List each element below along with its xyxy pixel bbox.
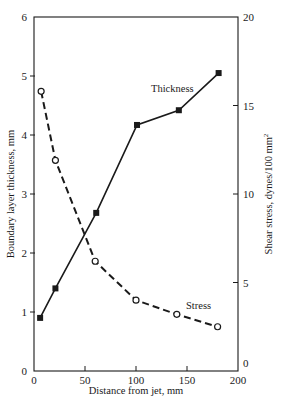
- square-marker: [216, 70, 222, 76]
- stress-series: [38, 88, 220, 329]
- right-y-tick-label: 15: [243, 100, 255, 112]
- left-y-tick-label: 3: [22, 188, 28, 200]
- x-axis-title: Distance from jet, mm: [89, 385, 183, 396]
- thickness-line: [40, 73, 219, 318]
- left-y-axis-ticks: 0123456: [22, 11, 36, 377]
- circle-marker: [174, 311, 180, 317]
- circle-marker: [215, 324, 221, 330]
- right-y-tick-label: 0: [243, 357, 249, 369]
- dual-axis-line-chart: 050100150200 0123456 05101520 Distance f…: [0, 0, 283, 410]
- stress-series-label: Stress: [186, 300, 211, 311]
- left-y-tick-label: 6: [22, 11, 28, 23]
- thickness-series: [37, 70, 222, 321]
- left-y-tick-label: 0: [22, 365, 28, 377]
- right-y-tick-label: 10: [243, 188, 255, 200]
- square-marker: [37, 315, 43, 321]
- left-y-axis-title: Boundary layer thickness, mm: [5, 130, 16, 258]
- circle-marker: [133, 297, 139, 303]
- square-marker: [134, 122, 140, 128]
- right-y-axis-ticks: 05101520: [233, 11, 255, 369]
- right-y-axis-title: Shear stress, dynes/100 mm2: [262, 133, 274, 254]
- left-y-tick-label: 2: [22, 247, 28, 259]
- x-axis-ticks: 050100150200: [31, 366, 247, 386]
- circle-marker: [92, 258, 98, 264]
- square-marker: [176, 107, 182, 113]
- square-marker: [52, 285, 58, 291]
- plot-border: [34, 17, 238, 371]
- thickness-series-label: Thickness: [151, 83, 194, 94]
- plot-frame: [34, 17, 238, 371]
- left-y-tick-label: 4: [22, 129, 28, 141]
- x-tick-label: 0: [31, 374, 37, 386]
- stress-line: [41, 91, 217, 326]
- right-y-tick-label: 20: [243, 11, 255, 23]
- left-y-tick-label: 5: [22, 70, 28, 82]
- superscript-2: 2: [262, 133, 270, 137]
- left-y-tick-label: 1: [22, 306, 28, 318]
- x-tick-label: 200: [230, 374, 247, 386]
- circle-marker: [38, 88, 44, 94]
- square-marker: [93, 210, 99, 216]
- circle-marker: [52, 157, 58, 163]
- right-y-tick-label: 5: [243, 277, 249, 289]
